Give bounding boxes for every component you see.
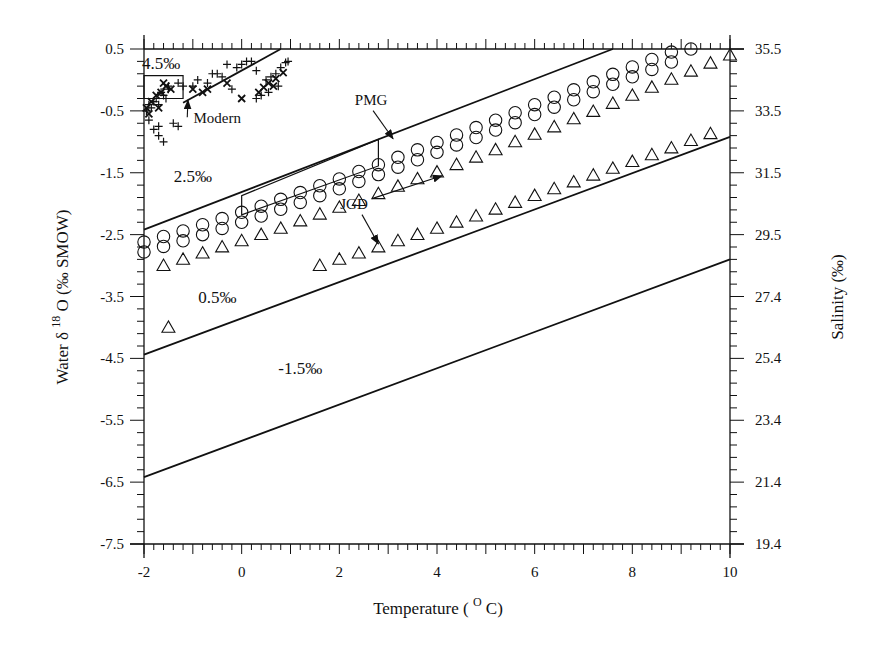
triangle-marker xyxy=(235,234,248,245)
circle-marker xyxy=(235,216,247,228)
circle-marker xyxy=(626,61,638,73)
x-marker xyxy=(280,69,287,76)
circle-marker xyxy=(587,85,599,97)
x-tick-label: 8 xyxy=(629,564,637,580)
y2-tick-label: 19.4 xyxy=(755,536,782,552)
triangle-marker xyxy=(431,222,444,233)
y-tick-label: -1.5 xyxy=(100,165,124,181)
y2-axis-title: Salinity (‰) xyxy=(828,254,847,339)
circle-marker xyxy=(353,175,365,187)
y2-tick-label: 27.4 xyxy=(755,289,782,305)
circle-marker xyxy=(392,151,404,163)
triangle-marker xyxy=(450,158,463,169)
triangle-marker xyxy=(509,135,522,146)
x-marker xyxy=(224,80,231,87)
triangle-marker xyxy=(450,216,463,227)
annotation-label: PMG xyxy=(355,92,388,108)
circle-marker xyxy=(216,222,228,234)
circle-marker xyxy=(470,131,482,143)
triangle-marker xyxy=(548,182,561,193)
y-tick-label: -2.5 xyxy=(100,227,124,243)
y-tick-label: -4.5 xyxy=(100,350,124,366)
plus-marker xyxy=(223,60,231,68)
x-axis-title: Temperature ( O C) xyxy=(373,591,503,618)
circle-marker xyxy=(294,196,306,208)
circle-marker xyxy=(665,56,677,68)
y2-tick-label: 33.5 xyxy=(755,103,781,119)
triangle-marker xyxy=(177,253,190,264)
circle-marker xyxy=(196,228,208,240)
triangle-marker xyxy=(216,241,229,252)
annotation-label: 0.5‰ xyxy=(198,288,236,307)
x-tick-label: 2 xyxy=(336,564,344,580)
triangle-marker xyxy=(162,321,175,332)
annotation-label: 4.5‰ xyxy=(142,54,180,73)
circle-marker xyxy=(392,161,404,173)
y-tick-label: -3.5 xyxy=(100,289,124,305)
circle-marker xyxy=(470,121,482,133)
triangle-marker xyxy=(313,208,326,219)
annotation-arrow xyxy=(362,215,378,244)
triangle-marker xyxy=(665,73,678,84)
triangle-marker xyxy=(391,234,404,245)
x-tick-label: 0 xyxy=(238,564,246,580)
y-axis-title-superscript: 18 xyxy=(49,316,63,328)
triangle-marker xyxy=(704,127,717,138)
y2-tick-label: 35.5 xyxy=(755,41,781,57)
chart: 4.5‰2.5‰0.5‰-1.5‰ModernPMGJGD -202468100… xyxy=(0,0,877,646)
triangle-marker xyxy=(587,169,600,180)
y-tick-label: 0.5 xyxy=(105,41,124,57)
triangle-marker xyxy=(684,134,697,145)
plus-marker xyxy=(208,70,216,78)
annotation-label: Modern xyxy=(194,110,242,126)
triangle-marker xyxy=(411,228,424,239)
circle-marker xyxy=(607,68,619,80)
circle-marker xyxy=(509,107,521,119)
circle-marker xyxy=(314,189,326,201)
x-marker xyxy=(238,95,245,102)
triangle-marker xyxy=(313,259,326,270)
y2-tick-label: 31.5 xyxy=(755,165,781,181)
triangle-marker xyxy=(567,176,580,187)
circle-marker xyxy=(528,98,540,110)
triangle-marker xyxy=(587,105,600,116)
circle-marker xyxy=(431,136,443,148)
triangle-marker xyxy=(606,162,619,173)
isoline xyxy=(144,137,730,355)
circle-marker xyxy=(587,76,599,88)
y2-tick-label: 21.4 xyxy=(755,474,782,490)
triangle-marker xyxy=(489,203,502,214)
x-axis-title-degree: O xyxy=(473,595,482,609)
circle-marker xyxy=(548,91,560,103)
circle-marker xyxy=(177,235,189,247)
isoline xyxy=(183,49,281,103)
x-marker xyxy=(160,80,167,87)
y2-tick-label: 23.4 xyxy=(755,412,782,428)
triangle-marker xyxy=(528,189,541,200)
plus-marker xyxy=(160,138,168,146)
circle-marker xyxy=(275,203,287,215)
circle-marker xyxy=(333,183,345,195)
annotation-label: -1.5‰ xyxy=(278,359,322,378)
annotation-label: JGD xyxy=(340,196,368,212)
triangle-marker xyxy=(704,57,717,68)
triangle-marker xyxy=(489,143,502,154)
circle-marker xyxy=(196,219,208,231)
circle-marker xyxy=(626,71,638,83)
circle-marker xyxy=(177,225,189,237)
circle-marker xyxy=(372,168,384,180)
circle-marker xyxy=(157,230,169,242)
x-tick-label: 4 xyxy=(433,564,441,580)
y-tick-label: -6.5 xyxy=(100,474,124,490)
triangle-marker xyxy=(606,97,619,108)
triangle-marker xyxy=(372,241,385,252)
triangle-marker xyxy=(684,65,697,76)
triangle-marker xyxy=(548,120,561,131)
annotation-label: 2.5‰ xyxy=(174,167,212,186)
triangle-marker xyxy=(645,148,658,159)
triangle-marker xyxy=(391,180,404,191)
circle-marker xyxy=(431,146,443,158)
circle-marker xyxy=(411,144,423,156)
y2-tick-label: 25.4 xyxy=(755,350,782,366)
triangle-marker xyxy=(352,247,365,258)
